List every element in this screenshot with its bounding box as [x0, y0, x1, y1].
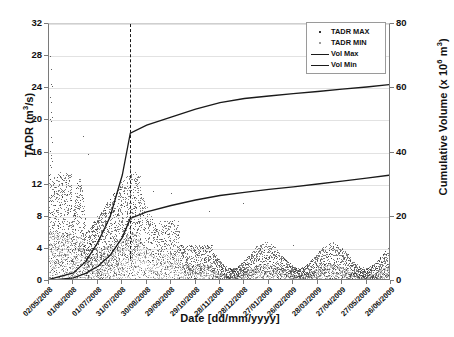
data-point	[231, 279, 232, 280]
data-point	[307, 279, 308, 280]
data-point	[289, 280, 290, 281]
x-tickmark	[366, 280, 367, 284]
data-point	[375, 279, 376, 280]
data-point	[357, 279, 358, 280]
data-point	[290, 279, 291, 280]
data-point	[206, 279, 207, 280]
data-point	[372, 279, 373, 280]
data-point	[124, 279, 125, 280]
data-point	[249, 279, 250, 280]
end-of-simulation-line	[130, 24, 131, 259]
data-point	[294, 279, 295, 280]
data-point	[273, 279, 274, 280]
x-tickmark	[170, 280, 171, 284]
data-point	[389, 271, 390, 272]
data-point	[389, 272, 390, 273]
y-tick-left: 12	[20, 178, 42, 189]
data-point	[389, 276, 390, 277]
data-point	[346, 279, 347, 280]
y-tick-left: 28	[20, 49, 42, 60]
data-point	[364, 279, 365, 280]
data-point	[347, 279, 348, 280]
y-tickmark-right	[390, 87, 394, 88]
data-point	[366, 280, 367, 281]
x-tick-label: 26/06/2009	[349, 285, 396, 332]
data-point	[241, 279, 242, 280]
data-point	[362, 279, 363, 280]
data-point	[135, 279, 136, 280]
data-point	[389, 249, 390, 250]
data-point	[191, 279, 192, 280]
y-tick-left: 20	[20, 113, 42, 124]
data-point	[302, 279, 303, 280]
data-point	[389, 277, 390, 278]
x-tickmark	[243, 280, 244, 284]
data-point	[196, 279, 197, 280]
series-vol-min-line	[49, 175, 390, 280]
data-point	[231, 279, 232, 280]
x-tickmark	[72, 280, 73, 284]
data-point	[389, 272, 390, 273]
data-point	[372, 279, 373, 280]
data-point	[343, 279, 344, 280]
data-point	[373, 279, 374, 280]
data-point	[219, 279, 220, 280]
data-point	[359, 279, 360, 280]
x-tickmark	[219, 280, 220, 284]
data-point	[216, 279, 217, 280]
y-tick-left: 0	[20, 274, 42, 285]
data-point	[240, 279, 241, 280]
data-point	[389, 271, 390, 272]
data-point	[341, 279, 342, 280]
data-point	[389, 272, 390, 273]
data-point	[301, 279, 302, 280]
data-point	[239, 279, 240, 280]
data-point	[389, 261, 390, 262]
legend-item: Vol Min	[309, 59, 382, 70]
y-tick-right: 60	[396, 81, 420, 92]
data-point	[301, 279, 302, 280]
x-tickmark	[390, 280, 391, 284]
x-tickmark	[292, 280, 293, 284]
data-point	[226, 279, 227, 280]
data-point	[250, 279, 251, 280]
data-point	[90, 279, 91, 280]
data-point	[278, 279, 279, 280]
data-point	[208, 279, 209, 280]
data-point	[208, 280, 209, 281]
data-point	[378, 280, 379, 281]
y-tickmark-right	[390, 216, 394, 217]
data-point	[118, 280, 119, 281]
data-point	[302, 279, 303, 280]
x-tickmark	[97, 280, 98, 284]
data-point	[389, 255, 390, 256]
legend-label: Vol Max	[331, 49, 358, 58]
y-tick-right: 0	[396, 274, 420, 285]
data-point	[86, 280, 87, 281]
data-point	[163, 280, 164, 281]
data-point	[247, 279, 248, 280]
data-point	[217, 279, 218, 280]
data-point	[217, 279, 218, 280]
data-point	[265, 279, 266, 280]
data-point	[354, 279, 355, 280]
y-tickmark-right	[390, 152, 394, 153]
data-point	[82, 279, 83, 280]
x-tickmark	[268, 280, 269, 284]
data-point	[384, 279, 385, 280]
data-point	[389, 251, 390, 252]
data-point	[283, 279, 284, 280]
data-point	[301, 279, 302, 280]
data-point	[332, 279, 333, 280]
data-point	[234, 279, 235, 280]
data-point	[299, 279, 300, 280]
chart-figure: TADR (m3/s) Cumulative Volume (x 106 m3)…	[0, 0, 454, 337]
y-tick-left: 8	[20, 210, 42, 221]
data-point	[192, 279, 193, 280]
data-point	[328, 279, 329, 280]
data-point	[191, 279, 192, 280]
data-point	[147, 280, 148, 281]
data-point	[381, 280, 382, 281]
data-point	[307, 279, 308, 280]
data-point	[273, 279, 274, 280]
